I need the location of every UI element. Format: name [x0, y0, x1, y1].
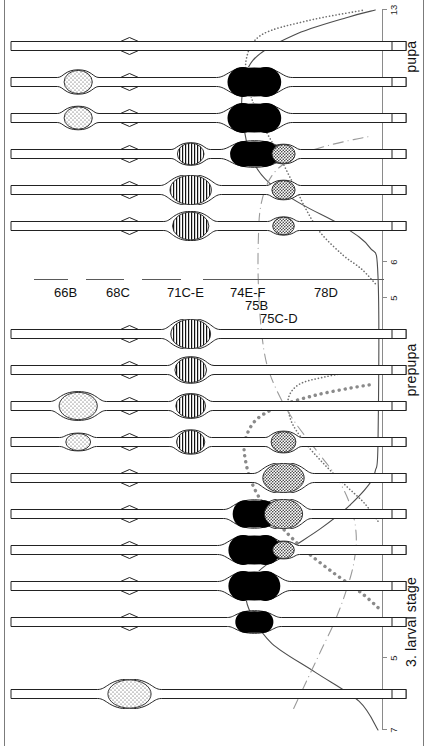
chromosome-profile: [8, 463, 422, 493]
chromosome-row: [8, 103, 412, 133]
chromosome-row: [8, 427, 412, 457]
chromosome-end-cap: [392, 546, 406, 555]
chromosome-holder: [8, 103, 422, 133]
locus-leader-78D: [294, 279, 328, 280]
puff-75C-D: [263, 463, 304, 492]
locus-label-block: 66B68C71C-E74E-F75B75C-D78D: [8, 234, 422, 326]
chromosome-end-cap: [392, 222, 406, 231]
puff-75C-D: [271, 432, 296, 453]
puff-71C-E: [177, 143, 204, 165]
puff-75C-D: [264, 499, 302, 528]
chromosome-holder: [8, 31, 422, 61]
chromosome-end-cap: [392, 42, 406, 51]
chromosome-holder: [8, 139, 422, 169]
axis-tick-label: 5: [389, 655, 399, 660]
chromosome-holder: [8, 463, 422, 493]
frame-rule: [423, 0, 424, 746]
locus-leader-68C: [86, 279, 120, 280]
chromosome-row: [8, 175, 412, 205]
chromosome-row: [8, 607, 412, 637]
chromosome-row: [8, 679, 412, 709]
chromosome-end-cap: [392, 618, 406, 627]
chromosome-row: [8, 391, 412, 421]
chromosome-profile: [8, 175, 422, 205]
puff-lobe: [252, 611, 274, 633]
chromosome-end-cap: [392, 438, 406, 447]
chromosome-end-cap: [392, 402, 406, 411]
puff-71C-E: [177, 430, 205, 453]
puff-66B: [64, 70, 92, 93]
chromosome-holder: [8, 499, 422, 529]
puff-lobe: [251, 67, 281, 97]
puff-71C-E: [176, 394, 206, 418]
chromosome-row: [8, 139, 412, 169]
chromosome-profile: [8, 67, 422, 97]
locus-leader-71C-E: [147, 279, 181, 280]
chromosome-profile: [8, 535, 422, 565]
axis-tick-label: 13: [389, 5, 399, 16]
chromosome-end-cap: [392, 474, 406, 483]
chromosome-end-cap: [392, 78, 406, 87]
chromosome-end-cap: [392, 330, 406, 339]
chromosome-row: [8, 355, 412, 385]
puff-lobe: [251, 103, 281, 133]
puff-68C: [108, 680, 151, 708]
axis-tick: [382, 729, 387, 730]
chromosome-outline: [11, 42, 406, 51]
axis-tick: [382, 657, 387, 658]
chromosome-outline: [11, 679, 406, 709]
puff-lobe: [251, 571, 280, 601]
puff-75C-D: [272, 181, 295, 200]
locus-leader-66B: [34, 279, 68, 280]
chromosome-outline: [11, 357, 406, 384]
chromosome-end-cap: [392, 690, 406, 699]
figure-canvas: 76543210123456789101112133. larval stage…: [0, 0, 426, 746]
puff-71C-E: [175, 357, 207, 382]
chromosome-end-cap: [392, 510, 406, 519]
puff-66B: [64, 107, 92, 129]
puff-75C-D: [273, 542, 295, 559]
puff-66B: [66, 434, 91, 451]
chromosome-profile: [8, 679, 422, 709]
locus-label-75C-D: 75C-D: [260, 312, 298, 326]
locus-label-78D: 78D: [314, 286, 338, 300]
chromosome-end-cap: [392, 114, 406, 123]
puff-75C-D: [272, 145, 295, 164]
chromosome-end-cap: [392, 150, 406, 159]
chromosome-holder: [8, 571, 422, 601]
chromosome-holder: [8, 679, 422, 709]
chromosome-profile: [8, 31, 422, 61]
puff-75C-D: [273, 217, 295, 235]
chromosome-holder: [8, 355, 422, 385]
chromosome-outline: [11, 463, 406, 493]
axis-tick: [382, 9, 387, 10]
frame-rule: [4, 0, 5, 746]
chromosome-profile: [8, 355, 422, 385]
chromosome-outline: [11, 499, 406, 529]
puff-71C-E: [170, 175, 211, 204]
chromosome-profile: [8, 499, 422, 529]
chromosome-holder: [8, 67, 422, 97]
locus-label-71C-E: 71C-E: [167, 286, 204, 300]
chromosome-end-cap: [392, 186, 406, 195]
chromosome-row: [8, 463, 412, 493]
chromosome-end-cap: [392, 366, 406, 375]
chromosome-profile: [8, 427, 422, 457]
puff-66B: [59, 392, 97, 419]
locus-leader-75C-D: [212, 279, 290, 280]
chromosome-profile: [8, 571, 422, 601]
chromosome-row: [8, 67, 412, 97]
chromosome-outline: [11, 611, 406, 634]
axis-tick-label: 7: [389, 727, 399, 732]
chromosome-outline: [11, 535, 406, 565]
chromosome-end-cap: [392, 582, 406, 591]
chromosome-holder: [8, 391, 422, 421]
chromosome-holder: [8, 535, 422, 565]
chromosome-outline: [11, 571, 406, 601]
chromosome-row: [8, 535, 412, 565]
locus-label-66B: 66B: [54, 286, 77, 300]
chromosome-holder: [8, 175, 422, 205]
chromosome-row: [8, 31, 412, 61]
locus-label-68C: 68C: [106, 286, 130, 300]
chromosome-outline: [11, 141, 406, 168]
